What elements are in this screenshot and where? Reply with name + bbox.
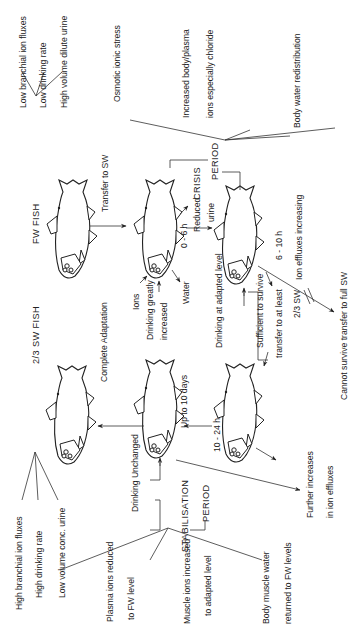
fw-trait-1: Low branchial ion fluxes <box>18 16 28 108</box>
stab-effect-water-1: Body muscle water <box>261 551 271 624</box>
sw-trait-3: Low volume conc. urine <box>57 507 67 598</box>
survival-line-3: 2/3 SW <box>292 289 302 318</box>
reduced-urine-1: Reduced <box>192 197 202 232</box>
reduced-urine-2: urine <box>206 203 216 222</box>
up-to-10-days: Up to 10 days <box>179 375 189 428</box>
drinking-greatly-2: increased <box>159 303 169 340</box>
fish-crisis-1 <box>134 180 184 278</box>
sw-trait-1: High branchial ion fluxes <box>14 516 24 610</box>
time-6-10: 6 - 10 h <box>274 231 284 260</box>
stab-effect-muscle-2: to adapted level <box>203 555 213 616</box>
stab-effect-muscle-1: Muscle ions increased <box>182 539 192 624</box>
ion-effluxes-increasing: Ion effluxes increasing <box>294 194 304 280</box>
fw-trait-2: Low drinking rate <box>38 42 48 108</box>
drinking-adapted: Drinking at adapted level <box>214 253 224 348</box>
stab-effect-water-2: returned to FW levels <box>283 542 293 624</box>
cannot-survive: Cannot survive transfer to full SW <box>339 271 349 400</box>
fish-fw <box>47 180 97 278</box>
fish-stabilisation <box>134 360 184 458</box>
stab-effect-plasma-1: Plasma ions reduced <box>105 542 115 622</box>
time-10-24: 10 - 24 h <box>212 418 222 452</box>
fish-sw <box>46 366 96 464</box>
drinking-greatly-1: Drinking greatly <box>145 280 155 340</box>
connector-lines <box>22 72 335 570</box>
further-increases-1: Further increases <box>305 451 315 518</box>
complete-adaptation: Complete Adaptation <box>99 302 109 382</box>
transfer-label: Transfer to SW <box>100 154 110 212</box>
time-0-6: 0 - 6 h <box>179 223 189 248</box>
water-label: Water <box>181 281 191 304</box>
fw-fish-label: FW FISH <box>31 203 41 244</box>
fw-trait-3: High volume dilute urine <box>59 16 69 108</box>
survival-line-1: Sufficient to survive <box>255 273 265 348</box>
crisis-title-2: PERIOD <box>210 142 220 180</box>
sw-trait-2: High drinking rate <box>34 530 44 598</box>
crisis-effect-osmotic: Osmotic ionic stress <box>112 25 122 102</box>
further-increases-2: in ion effluxes <box>325 466 335 518</box>
crisis-effect-increased: Increased body/plasma <box>181 29 191 118</box>
crisis-effect-chloride: ions especially chloride <box>205 29 215 118</box>
osmoregulation-diagram: Low branchial ion fluxes Low drinking ra… <box>0 0 356 625</box>
stab-effect-plasma-2: to FW level <box>126 577 136 620</box>
crisis-effect-water: Body water redistribution <box>292 33 302 128</box>
ions-label: Ions <box>131 294 141 310</box>
drinking-unchanged: Drinking Unchanged <box>130 434 140 512</box>
sw-fish-label: 2/3 SW FISH <box>31 306 41 364</box>
stabilisation-title-2: PERIOD <box>201 484 211 522</box>
survival-line-2: transfer to at least <box>274 289 284 358</box>
crisis-title-1: CRISIS <box>192 167 202 200</box>
